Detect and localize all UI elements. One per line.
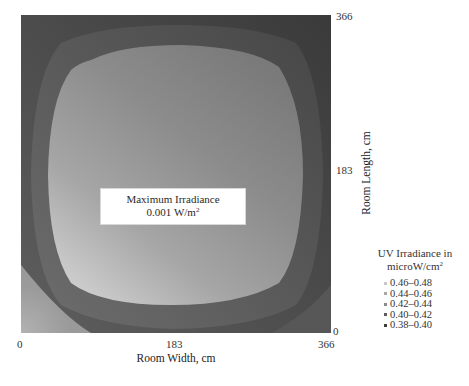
annotation-title: Maximum Irradiance (101, 193, 245, 206)
legend-item: 0.42–0.44 (384, 299, 468, 310)
legend-title: UV Irradiance in microW/cm2 (362, 247, 468, 273)
legend-swatch (384, 292, 387, 295)
max-irradiance-annotation: Maximum Irradiance 0.001 W/m2 (100, 188, 246, 225)
legend-swatch (384, 303, 387, 306)
y-tick-366: 366 (336, 10, 353, 22)
x-tick-183: 183 (166, 338, 183, 350)
legend-swatch (384, 324, 387, 327)
heatmap-plot-area (21, 15, 331, 333)
band-042-048 (48, 45, 303, 305)
x-axis-label: Room Width, cm (126, 352, 226, 364)
legend: UV Irradiance in microW/cm2 0.46–0.48 0.… (368, 247, 468, 331)
x-tick-366: 366 (318, 338, 335, 350)
y-tick-183: 183 (336, 164, 353, 176)
legend-item: 0.38–0.40 (384, 320, 468, 331)
y-tick-0: 0 (333, 325, 339, 337)
annotation-value: 0.001 W/m2 (101, 206, 245, 219)
legend-items: 0.46–0.48 0.44–0.46 0.42–0.44 0.40–0.42 … (368, 278, 468, 331)
legend-swatch (384, 282, 387, 285)
x-tick-0: 0 (17, 338, 23, 350)
y-axis-label: Room Length, cm (360, 131, 372, 214)
legend-swatch (384, 313, 387, 316)
legend-item: 0.46–0.48 (384, 278, 468, 289)
irradiance-heatmap (21, 15, 331, 333)
